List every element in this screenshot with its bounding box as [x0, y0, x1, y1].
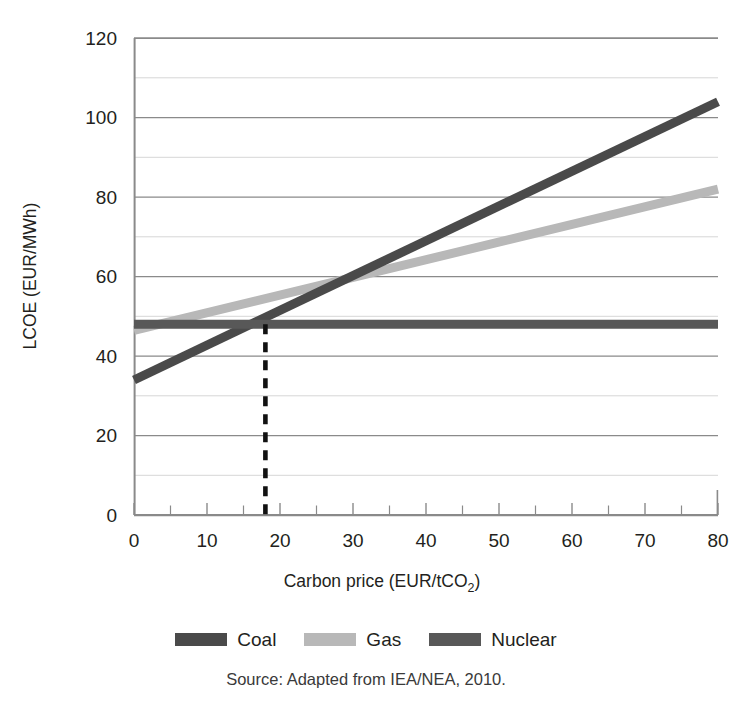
legend-swatch-nuclear	[429, 633, 481, 646]
lcoe-vs-carbon-price-chart: 0 20 40 60 80 100 120 0 10 20 30 40 50 6…	[0, 0, 732, 620]
x-axis-title-main: Carbon price (EUR/tCO	[284, 571, 468, 591]
x-tick-label: 50	[488, 530, 509, 551]
chart-legend: Coal Gas Nuclear	[0, 630, 732, 649]
x-tick-label: 70	[634, 530, 655, 551]
source-note: Source: Adapted from IEA/NEA, 2010.	[0, 670, 732, 689]
series-line-gas	[134, 189, 718, 330]
legend-swatch-coal	[175, 633, 227, 646]
legend-item-coal[interactable]: Coal	[175, 630, 276, 649]
major-gridlines	[134, 118, 718, 436]
y-tick-label: 120	[85, 28, 117, 49]
y-axis-tick-labels: 0 20 40 60 80 100 120	[85, 28, 117, 526]
y-axis-title: LCOE (EUR/MWh)	[20, 203, 40, 350]
data-series-group	[134, 102, 718, 380]
y-tick-label: 0	[106, 505, 117, 526]
figure-container: 0 20 40 60 80 100 120 0 10 20 30 40 50 6…	[0, 0, 732, 705]
y-tick-label: 20	[96, 425, 117, 446]
x-axis-title-subscript: 2	[468, 581, 475, 595]
legend-item-nuclear[interactable]: Nuclear	[429, 630, 556, 649]
y-tick-label: 60	[96, 266, 117, 287]
series-line-coal	[134, 102, 718, 380]
x-axis-tick-labels: 0 10 20 30 40 50 60 70 80	[129, 530, 729, 551]
x-tick-label: 20	[269, 530, 290, 551]
x-tick-label: 40	[415, 530, 436, 551]
y-tick-label: 80	[96, 187, 117, 208]
x-tick-label: 80	[707, 530, 728, 551]
legend-label-gas: Gas	[366, 630, 401, 649]
x-tick-label: 0	[129, 530, 140, 551]
x-axis-title-close: )	[474, 571, 480, 591]
legend-label-coal: Coal	[237, 630, 276, 649]
x-tick-label: 60	[561, 530, 582, 551]
y-tick-label: 40	[96, 346, 117, 367]
x-axis-major-ticks	[134, 503, 718, 515]
x-tick-label: 30	[342, 530, 363, 551]
x-axis-title: Carbon price (EUR/tCO2)	[284, 571, 481, 595]
legend-label-nuclear: Nuclear	[491, 630, 556, 649]
legend-item-gas[interactable]: Gas	[304, 630, 401, 649]
x-tick-label: 10	[196, 530, 217, 551]
y-tick-label: 100	[85, 107, 117, 128]
legend-swatch-gas	[304, 633, 356, 646]
